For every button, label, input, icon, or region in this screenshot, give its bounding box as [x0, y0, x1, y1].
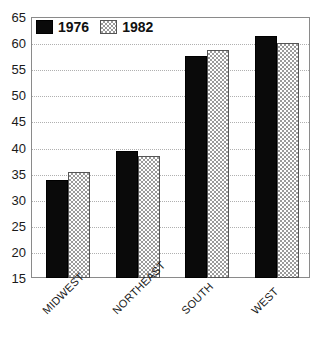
y-axis-tick-label: 45: [0, 115, 26, 128]
legend-swatch-1982: [100, 20, 117, 34]
legend-swatch-1976: [36, 20, 53, 34]
y-axis-tick-label: 30: [0, 194, 26, 207]
y-axis-tick-label: 40: [0, 142, 26, 155]
y-axis-tick-label: 55: [0, 63, 26, 76]
bar-midwest-1976: [46, 180, 68, 278]
bar-west-1976: [255, 36, 277, 278]
bar-south-1976: [185, 56, 207, 278]
bar-midwest-1982: [68, 172, 90, 278]
bar-south-1982: [207, 50, 229, 278]
x-axis-tick-label: SOUTH: [179, 280, 215, 316]
legend-label-1976: 1976: [58, 20, 89, 34]
y-axis-tick-label: 35: [0, 168, 26, 181]
bar-northeast-1982: [138, 156, 160, 278]
y-axis-tick-label: 25: [0, 220, 26, 233]
bar-west-1982: [277, 43, 299, 278]
y-axis-tick-label: 15: [0, 272, 26, 285]
bar-chart: 1520253035404550556065 1976 1982 MIDWEST…: [0, 0, 329, 341]
y-axis-tick-label: 60: [0, 37, 26, 50]
legend: 1976 1982: [35, 19, 162, 35]
legend-label-1982: 1982: [122, 20, 153, 34]
y-axis-tick-label: 20: [0, 246, 26, 259]
bars-layer: [31, 17, 310, 278]
bar-northeast-1976: [116, 151, 138, 278]
x-axis-tick-label: WEST: [249, 285, 281, 317]
y-axis-tick-label: 65: [0, 11, 26, 24]
y-axis-tick-label: 50: [0, 89, 26, 102]
